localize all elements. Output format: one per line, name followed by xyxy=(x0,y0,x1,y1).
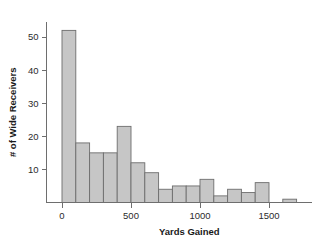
y-tick-label-40: 40 xyxy=(28,65,39,76)
histogram-bar-1200-1300 xyxy=(228,189,242,202)
y-axis-title: # of Wide Receivers xyxy=(7,67,18,157)
x-axis-title: Yards Gained xyxy=(159,226,220,237)
histogram-bar-500-600 xyxy=(131,163,145,203)
histogram-bar-1400-1500 xyxy=(255,183,269,203)
x-tick-label-500: 500 xyxy=(123,210,139,221)
histogram-bar-1100-1200 xyxy=(214,196,228,203)
histogram-bar-100-200 xyxy=(76,143,90,203)
histogram-bar-200-300 xyxy=(90,153,104,203)
histogram-bar-1000-1100 xyxy=(200,179,214,202)
histogram-bar-1300-1400 xyxy=(241,193,255,203)
y-tick-label-20: 20 xyxy=(28,131,39,142)
x-tick-label-1000: 1000 xyxy=(189,210,210,221)
histogram-bar-800-900 xyxy=(172,186,186,203)
x-tick-label-0: 0 xyxy=(59,210,64,221)
y-tick-label-30: 30 xyxy=(28,98,39,109)
histogram-bar-700-800 xyxy=(159,189,173,202)
histogram-bar-300-400 xyxy=(103,153,117,203)
histogram-plot-area: 1020304050050010001500Yards Gained# of W… xyxy=(0,0,327,250)
histogram-bar-0-100 xyxy=(62,30,76,202)
histogram-bar-600-700 xyxy=(145,173,159,203)
histogram-bar-900-1000 xyxy=(186,186,200,203)
y-tick-label-10: 10 xyxy=(28,164,39,175)
y-tick-label-50: 50 xyxy=(28,31,39,42)
x-tick-label-1500: 1500 xyxy=(258,210,279,221)
histogram-bar-400-500 xyxy=(117,126,131,202)
histogram-chart: 1020304050050010001500Yards Gained# of W… xyxy=(0,0,327,250)
